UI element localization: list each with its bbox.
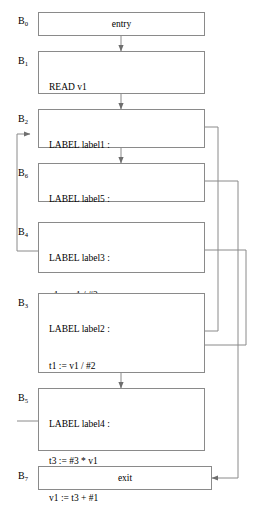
code-line: t1 := v1 / #2: [49, 360, 204, 372]
code-line: LABEL label2 :: [49, 323, 204, 335]
code-line: LABEL label4 :: [49, 418, 204, 430]
block-b0-entry: entry: [38, 12, 205, 36]
block-label-b1: B1: [18, 56, 28, 66]
block-label-b4: B4: [18, 227, 28, 237]
block-b7-exit: exit: [38, 466, 212, 490]
code-line: LABEL label3 :: [49, 252, 204, 264]
code-line: LABEL label1 :: [49, 139, 204, 151]
block-b3: LABEL label2 : t1 := v1 / #2 t2 := t1 * …: [38, 293, 205, 373]
block-label-b3: B3: [18, 298, 28, 308]
code-line: READ v1: [49, 81, 204, 93]
block-label-b2: B2: [18, 114, 28, 124]
code-line: entry: [112, 18, 132, 30]
block-label-b0: B0: [18, 16, 28, 26]
code-line: exit: [118, 472, 132, 484]
block-label-b6: B6: [18, 168, 28, 178]
block-b5: LABEL label4 : t3 := #3 * v1 v1 := t3 + …: [38, 388, 205, 451]
edge-b6-to-b7: [205, 181, 238, 478]
control-flow-graph: B0 B1 B2 B6 B4 B3 B5 B7 entry READ v1 v2…: [0, 0, 254, 509]
block-b2: LABEL label1 : IF v1 > #1 GOTO label2: [38, 109, 205, 148]
block-b1: READ v1 v2 := #0: [38, 51, 205, 94]
code-line: LABEL label5 :: [49, 193, 204, 205]
block-b4: LABEL label3 : v1 := v1 / #2 GOTO label1: [38, 222, 205, 273]
block-label-b5: B5: [18, 393, 28, 403]
block-b6: LABEL label5 : RETURN #0: [38, 163, 205, 202]
block-label-b7: B7: [18, 471, 28, 481]
